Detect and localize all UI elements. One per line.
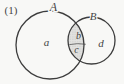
set-a-label: A — [49, 0, 58, 14]
region-c-label: c — [74, 44, 79, 55]
region-d-label: d — [98, 37, 104, 49]
venn-diagram: (1) A B a b c d — [0, 0, 124, 84]
figure-label: (1) — [5, 4, 18, 17]
region-a-label: a — [44, 36, 50, 48]
region-b-label: b — [76, 30, 81, 41]
set-b-label: B — [90, 10, 97, 22]
diagram-canvas: (1) A B a b c d — [0, 0, 124, 84]
